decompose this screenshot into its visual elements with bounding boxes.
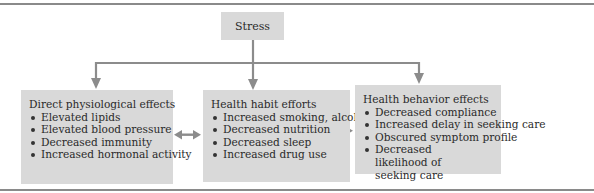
branch-line xyxy=(96,63,419,80)
health-behavior-box: Health behavior effects Decreased compli… xyxy=(355,85,501,174)
list-item: Increased delay in seeking care xyxy=(363,118,495,131)
effects-list: Decreased compliance Increased delay in … xyxy=(363,106,495,182)
panel-title: Direct physiological effects xyxy=(29,98,167,111)
panel-title: Health habit efforts xyxy=(211,98,344,111)
list-item: Increased smoking, alcohol use xyxy=(211,111,344,124)
physiological-effects-box: Direct physiological effects Elevated li… xyxy=(21,90,173,184)
down-arrow-right-icon xyxy=(414,73,424,84)
stress-box: Stress xyxy=(221,12,284,40)
health-habit-box: Health habit efforts Increased smoking, … xyxy=(203,90,350,182)
list-item: Decreased immunity xyxy=(29,136,167,149)
down-arrow-left-icon xyxy=(91,78,101,89)
list-item: Decreased nutrition xyxy=(211,123,344,136)
list-item: Decreased sleep xyxy=(211,136,344,149)
stress-label: Stress xyxy=(235,20,270,33)
list-item: Elevated blood pressure xyxy=(29,123,167,136)
list-item: Elevated lipids xyxy=(29,111,167,124)
list-item: Decreased likelihood of seeking care xyxy=(363,143,480,181)
down-arrow-middle-icon xyxy=(248,79,258,90)
effects-list: Elevated lipids Elevated blood pressure … xyxy=(29,111,167,161)
panel-title: Health behavior effects xyxy=(363,93,495,106)
list-item: Increased drug use xyxy=(211,148,344,161)
list-item: Increased hormonal activity xyxy=(29,148,167,161)
effects-list: Increased smoking, alcohol use Decreased… xyxy=(211,111,344,161)
list-item: Decreased compliance xyxy=(363,106,495,119)
double-arrow-left-middle-icon xyxy=(174,130,201,139)
list-item: Obscured symptom profile xyxy=(363,131,495,144)
